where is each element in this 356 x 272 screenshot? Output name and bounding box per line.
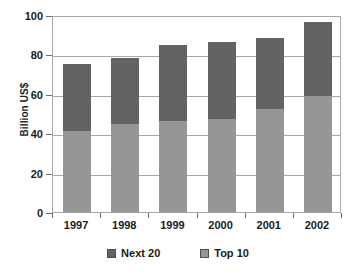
y-tick-label: 60 — [0, 89, 43, 100]
bar-segment-top10 — [159, 121, 187, 212]
bar-segment-top10 — [111, 124, 139, 212]
gridline — [53, 96, 340, 97]
y-tick-label: 100 — [0, 11, 43, 22]
y-tick-mark — [46, 16, 52, 17]
legend-entry: Top 10 — [200, 247, 249, 259]
x-axis-label-1999: 1999 — [160, 219, 184, 231]
bar-2001 — [256, 38, 284, 212]
x-axis-label-2002: 2002 — [305, 219, 329, 231]
y-tick-label: 0 — [0, 208, 43, 219]
bar-segment-top10 — [63, 131, 91, 212]
bar-segment-next20 — [256, 38, 284, 109]
bar-segment-next20 — [159, 45, 187, 122]
x-tick-mark — [100, 213, 101, 218]
y-axis-title: Billion US$ — [19, 55, 30, 165]
plot-area — [52, 16, 341, 213]
y-tick-label: 40 — [0, 129, 43, 140]
bar-1997 — [63, 64, 91, 212]
stacked-bar-chart: Billion US$ 020406080100 199719981999200… — [0, 0, 356, 272]
y-tick-mark — [46, 95, 52, 96]
bar-segment-top10 — [304, 96, 332, 212]
x-tick-mark — [52, 213, 53, 218]
gridline — [53, 56, 340, 57]
x-tick-mark — [293, 213, 294, 218]
y-tick-mark — [46, 174, 52, 175]
y-tick-label: 20 — [0, 168, 43, 179]
bar-segment-top10 — [256, 109, 284, 212]
x-tick-mark — [148, 213, 149, 218]
x-tick-mark — [341, 213, 342, 218]
x-axis-label-2001: 2001 — [257, 219, 281, 231]
legend-label: Next 20 — [121, 247, 160, 259]
legend-swatch-icon — [200, 249, 209, 258]
bar-segment-next20 — [208, 42, 236, 120]
y-tick-label: 80 — [0, 50, 43, 61]
y-tick-mark — [46, 134, 52, 135]
bar-segment-next20 — [304, 22, 332, 96]
bar-1999 — [159, 45, 187, 212]
legend-swatch-icon — [107, 249, 116, 258]
bar-2000 — [208, 42, 236, 212]
bar-segment-top10 — [208, 119, 236, 212]
legend-label: Top 10 — [214, 247, 249, 259]
bar-segment-next20 — [63, 64, 91, 131]
gridline — [53, 175, 340, 176]
x-axis-label-1997: 1997 — [64, 219, 88, 231]
y-tick-mark — [46, 55, 52, 56]
gridline — [53, 135, 340, 136]
x-axis-label-1998: 1998 — [112, 219, 136, 231]
x-tick-mark — [245, 213, 246, 218]
bar-segment-next20 — [111, 58, 139, 124]
legend-entry: Next 20 — [107, 247, 160, 259]
chart-legend: Next 20Top 10 — [0, 247, 356, 259]
x-axis-label-2000: 2000 — [208, 219, 232, 231]
bar-2002 — [304, 22, 332, 212]
x-tick-mark — [197, 213, 198, 218]
bar-1998 — [111, 58, 139, 212]
